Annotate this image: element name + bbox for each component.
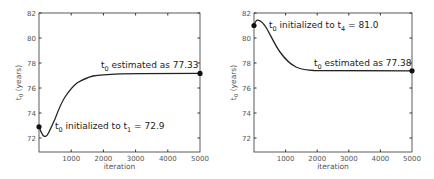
left-estimate-annotation: t0 estimated as 77.33 xyxy=(101,60,199,73)
y-tick-label: 72 xyxy=(27,135,36,143)
y-tick-label: 80 xyxy=(27,35,36,43)
x-tick-label: 1000 xyxy=(277,155,295,163)
y-tick-label: 78 xyxy=(242,60,251,68)
y-tick-label: 82 xyxy=(242,10,251,18)
left-end-marker xyxy=(197,71,202,76)
x-tick-label: 4000 xyxy=(371,155,389,163)
x-tick-label: 5000 xyxy=(191,155,209,163)
left-chart: 82 80 78 76 74 72 1000 2000 3000 4000 50… xyxy=(14,10,209,172)
y-tick-label: 78 xyxy=(27,60,36,68)
x-tick-label: 1000 xyxy=(62,155,80,163)
y-axis-label: t0 (years) xyxy=(229,65,239,100)
left-x-ticks: 1000 2000 3000 4000 5000 xyxy=(62,13,209,163)
y-tick-label: 80 xyxy=(242,35,251,43)
right-estimate-annotation: t0 estimated as 77.38 xyxy=(314,58,412,71)
y-tick-label: 82 xyxy=(27,10,36,18)
right-axes-frame xyxy=(254,13,412,152)
figure: 82 80 78 76 74 72 1000 2000 3000 4000 50… xyxy=(0,0,434,179)
left-init-annotation: t0 initialized to t1 = 72.9 xyxy=(55,121,165,134)
y-tick-label: 76 xyxy=(242,85,251,93)
right-chart: 82 80 78 76 74 72 1000 2000 3000 4000 50… xyxy=(229,10,421,172)
x-tick-label: 5000 xyxy=(403,155,421,163)
right-init-annotation: t0 initialized to t4 = 81.0 xyxy=(269,20,379,33)
y-tick-label: 72 xyxy=(242,135,251,143)
x-axis-label: iteration xyxy=(104,162,136,171)
right-x-ticks: 1000 2000 3000 4000 5000 xyxy=(277,13,421,163)
right-end-marker xyxy=(409,68,414,73)
x-tick-label: 4000 xyxy=(159,155,177,163)
y-tick-label: 74 xyxy=(27,110,36,118)
left-axes-frame xyxy=(39,13,200,152)
x-axis-label: iteration xyxy=(317,162,349,171)
y-tick-label: 76 xyxy=(27,85,36,93)
y-axis-label: t0 (years) xyxy=(14,65,24,100)
y-tick-label: 74 xyxy=(242,110,251,118)
right-start-marker xyxy=(251,23,256,28)
left-start-marker xyxy=(36,124,41,129)
